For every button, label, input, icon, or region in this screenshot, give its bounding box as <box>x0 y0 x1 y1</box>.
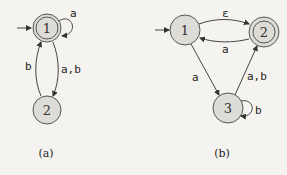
state-a-2-label: 2 <box>43 103 51 118</box>
edge-b-3-2-label: a,b <box>247 70 267 83</box>
state-b-3-label: 3 <box>224 101 232 116</box>
edge-a-2-1-label: b <box>25 60 32 73</box>
edge-a-1-1-label: a <box>70 7 77 20</box>
edge-a-1-2-label: a,b <box>61 63 81 76</box>
edge-b-1-2 <box>199 20 249 25</box>
edge-a-1-2 <box>53 42 58 96</box>
edge-b-2-1-label: a <box>222 43 229 56</box>
state-b-1-label: 1 <box>181 23 189 38</box>
automata-figure: 1 a a,b b 2 (a) 1 2 ε a a a,b 3 b (b) <box>0 0 287 175</box>
edge-b-1-3-label: a <box>192 71 199 84</box>
edge-b-2-1 <box>200 38 249 42</box>
diagram-a: 1 a a,b b 2 (a) <box>17 7 81 160</box>
edge-b-1-3 <box>191 44 219 95</box>
state-b-2-label: 2 <box>260 25 268 40</box>
caption-b: (b) <box>214 147 230 160</box>
state-a-1-label: 1 <box>43 21 51 36</box>
diagram-b: 1 2 ε a a a,b 3 b (b) <box>155 7 279 160</box>
edge-b-3-3-label: b <box>255 104 262 117</box>
edge-b-1-2-label: ε <box>222 7 229 20</box>
caption-a: (a) <box>38 147 53 160</box>
edge-a-2-1 <box>36 42 41 96</box>
